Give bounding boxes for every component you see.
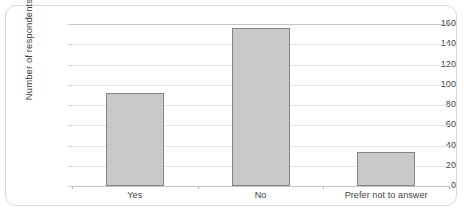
- chart-screenshot: Number of respondents 020406080100120140…: [0, 0, 464, 213]
- bar: [106, 93, 164, 186]
- x-axis-tick-mark: [449, 186, 450, 189]
- y-axis-tick-marks: [32, 24, 72, 186]
- chart-frame: Number of respondents 020406080100120140…: [5, 5, 457, 206]
- x-axis-tick-labels: YesNoPrefer not to answer: [72, 190, 449, 206]
- x-axis-tick-mark: [323, 186, 324, 189]
- x-axis-tick-mark: [198, 186, 199, 189]
- x-axis-line: [72, 186, 449, 187]
- gridline: [72, 24, 449, 25]
- x-axis-tick-mark: [72, 186, 73, 189]
- x-axis-tick-label: Prefer not to answer: [323, 190, 449, 200]
- x-axis-tick-label: Yes: [72, 190, 198, 200]
- bar: [357, 152, 415, 186]
- bar: [232, 28, 290, 186]
- plot-area: [72, 24, 449, 186]
- x-axis-tick-label: No: [198, 190, 324, 200]
